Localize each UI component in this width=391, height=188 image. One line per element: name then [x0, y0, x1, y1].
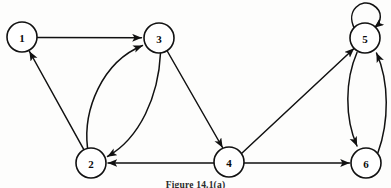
edge-3-4 — [168, 52, 223, 148]
node-circle-4 — [214, 147, 244, 177]
graph-node-2[interactable]: 2 — [76, 148, 106, 178]
edge-6-5 — [377, 53, 387, 153]
graph-node-6[interactable]: 6 — [351, 148, 381, 178]
node-circle-2 — [76, 148, 106, 178]
edge-5-6 — [348, 53, 357, 147]
node-circle-6 — [351, 148, 381, 178]
edge-3-2 — [108, 53, 161, 156]
edge-layer — [30, 3, 387, 163]
graph-node-1[interactable]: 1 — [7, 22, 37, 52]
edge-2-1 — [30, 52, 85, 150]
graph-node-3[interactable]: 3 — [144, 23, 174, 53]
node-circle-5 — [350, 23, 380, 53]
directed-graph-diagram: 1 2 3 4 5 6 — [0, 0, 391, 188]
node-circle-1 — [7, 22, 37, 52]
node-circle-3 — [144, 23, 174, 53]
graph-node-4[interactable]: 4 — [214, 147, 244, 177]
figure-caption: Figure 14.1(a) — [0, 180, 391, 188]
node-layer: 1 2 3 4 5 6 — [7, 22, 381, 178]
edge-4-5 — [242, 49, 355, 154]
graph-node-5[interactable]: 5 — [350, 23, 380, 53]
figure-container: 1 2 3 4 5 6 Figure 14. — [0, 0, 391, 188]
